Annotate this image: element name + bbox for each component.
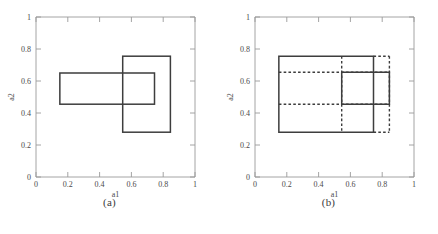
y-tick-label: 0 [246,173,250,182]
x-tick-label: 0.4 [314,180,324,189]
y-tick-label: 0.8 [240,45,250,54]
x-tick-label: 1 [193,180,197,189]
y-tick-label: 0.8 [21,45,31,54]
y-tick-label: 1 [246,13,250,22]
bounding-box-union [279,56,374,132]
y-tick-label: 0.6 [240,77,250,86]
x-tick-label: 0.8 [377,180,387,189]
y-tick-labels-b: 0 0.2 0.4 0.6 0.8 1 [240,13,250,182]
plot-b: 0 0.2 0.4 0.6 0.8 1 0 0.2 0.4 0.6 0.8 1 … [219,0,438,200]
y-tick-label: 0.2 [240,141,250,150]
y-tick-label: 0.6 [21,77,31,86]
y-tick-label: 0 [27,173,31,182]
panel-b: 0 0.2 0.4 0.6 0.8 1 0 0.2 0.4 0.6 0.8 1 … [219,0,438,234]
x-tick-label: 0.6 [126,180,136,189]
plot-a: 0 0.2 0.4 0.6 0.8 1 0 0.2 0.4 0.6 0.8 1 … [0,0,219,200]
y-tick-label: 0.4 [240,109,250,118]
y-axis-label-b: a2 [226,93,235,101]
panel-a: 0 0.2 0.4 0.6 0.8 1 0 0.2 0.4 0.6 0.8 1 … [0,0,219,234]
rectangle-1-wide [60,73,155,104]
x-tick-label: 0.6 [345,180,355,189]
panel-caption-a: (a) [0,196,219,208]
x-tick-label: 0 [253,180,257,189]
x-tick-labels-b: 0 0.2 0.4 0.6 0.8 1 [253,180,416,189]
x-tick-label: 1 [412,180,416,189]
figure-container: 0 0.2 0.4 0.6 0.8 1 0 0.2 0.4 0.6 0.8 1 … [0,0,438,234]
x-tick-label: 0.2 [63,180,73,189]
x-tick-label: 0.4 [95,180,105,189]
panel-caption-b: (b) [219,196,438,208]
intersection-box [342,72,390,104]
y-tick-label: 1 [27,13,31,22]
y-axis-label-a: a2 [7,93,16,101]
x-tick-label: 0.2 [282,180,292,189]
y-tick-label: 0.2 [21,141,31,150]
x-tick-label: 0 [34,180,38,189]
x-tick-labels-a: 0 0.2 0.4 0.6 0.8 1 [34,180,197,189]
rectangle-2-tall [123,56,171,132]
x-tick-label: 0.8 [158,180,168,189]
y-tick-labels-a: 0 0.2 0.4 0.6 0.8 1 [21,13,31,182]
y-tick-label: 0.4 [21,109,31,118]
